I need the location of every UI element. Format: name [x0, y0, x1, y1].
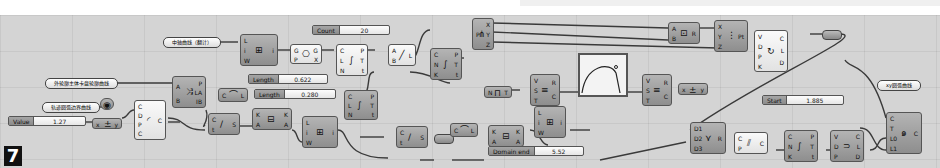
node-remap-2[interactable]: V S T ≡ R C [642, 74, 672, 106]
port[interactable]: C [138, 130, 142, 137]
node-divide-curve-2[interactable]: C N K ∫ P T t [430, 48, 462, 80]
port[interactable]: t [456, 71, 458, 78]
node-interp[interactable]: V D P ⊃ C L D [830, 130, 864, 162]
port[interactable]: L [306, 119, 309, 126]
port[interactable]: K [788, 153, 792, 160]
port[interactable]: V [758, 33, 762, 40]
port[interactable]: C [856, 133, 860, 140]
node-divide-curve-3[interactable]: C L N ∫ P T t [344, 90, 378, 120]
port[interactable]: L [340, 57, 343, 64]
port[interactable]: D [834, 143, 839, 150]
port[interactable]: C [914, 130, 918, 137]
node-polyline[interactable]: V D P K ↻ C L D [754, 30, 788, 72]
port[interactable]: W [244, 57, 250, 64]
port[interactable]: A [672, 25, 676, 32]
port[interactable]: Z [486, 41, 490, 48]
port[interactable]: C [158, 117, 162, 124]
port[interactable]: N [488, 89, 493, 96]
port[interactable]: L [409, 52, 412, 59]
port[interactable]: t [372, 111, 374, 118]
port[interactable]: L [538, 109, 541, 116]
node-curve-closest[interactable]: G P ⎔ G X [290, 44, 322, 64]
node-deconstruct[interactable]: P ⋔ X Y Z [472, 18, 494, 50]
port[interactable]: t [400, 139, 402, 146]
port[interactable]: C [434, 51, 438, 58]
node-length[interactable]: C ⌒ L [218, 88, 248, 102]
port[interactable]: S [646, 87, 650, 94]
port[interactable]: T [504, 89, 508, 96]
port[interactable]: C [222, 92, 226, 99]
node-line[interactable]: A B ╱ L [388, 44, 416, 66]
port[interactable]: Pt [738, 33, 744, 40]
port[interactable]: L [244, 37, 247, 44]
node-arc-blend[interactable]: C T L0 L1 ๑ C [886, 112, 922, 154]
port[interactable]: i [332, 129, 334, 136]
port[interactable]: A [392, 47, 396, 54]
panel-mid-curve[interactable]: 中轴曲线（翻计） [163, 37, 221, 48]
port[interactable]: i [272, 47, 274, 54]
port[interactable]: S [232, 121, 236, 128]
node-merge-d[interactable]: D1 D2 D3 ⋎ R [690, 122, 726, 154]
port[interactable]: N [348, 111, 353, 118]
port[interactable]: L [781, 47, 784, 54]
port[interactable]: L [857, 143, 860, 150]
port[interactable]: W [306, 139, 312, 146]
port[interactable]: C [664, 93, 668, 100]
port[interactable]: P [360, 47, 364, 54]
port[interactable]: P [198, 80, 202, 87]
port[interactable]: P [370, 93, 374, 100]
port[interactable]: K [256, 111, 260, 118]
port[interactable]: A [176, 83, 180, 90]
port[interactable]: G [294, 47, 299, 54]
panel-boundary-curve[interactable]: 轨迹圆弧边界曲线 [42, 102, 100, 113]
panel-outer-curve[interactable]: 外轮廓主体卡盘轮廓曲线 [45, 78, 118, 89]
port[interactable]: y [114, 121, 118, 128]
port[interactable]: P [294, 56, 298, 63]
port[interactable]: C [400, 129, 404, 136]
port[interactable]: C [138, 103, 142, 110]
node-list-item-2[interactable]: L i W ⊞ i [302, 116, 338, 148]
port[interactable]: C [890, 115, 894, 122]
node-circle-param[interactable]: ◉ [100, 98, 114, 110]
port[interactable]: B [672, 35, 676, 42]
port[interactable]: D [138, 112, 143, 119]
port[interactable]: Z [718, 43, 722, 50]
port[interactable]: B [392, 57, 396, 64]
port[interactable]: y [700, 86, 704, 93]
port[interactable]: T [534, 97, 538, 104]
port[interactable]: C [552, 93, 556, 100]
port[interactable]: A [516, 138, 520, 145]
panel-output-curve[interactable]: xy圆弧曲线 [877, 80, 921, 91]
port[interactable]: T [890, 125, 894, 132]
slider-count[interactable]: Count 20 [312, 25, 390, 35]
node-negate-2[interactable]: x ± y [678, 83, 708, 95]
node-merge-arc[interactable]: C D P C ◜ C [134, 100, 166, 140]
node-reparam-2[interactable]: K A ⊟ K A [488, 125, 524, 147]
port[interactable]: A [256, 121, 260, 128]
port[interactable]: R [664, 79, 668, 86]
port[interactable]: C [738, 135, 742, 142]
port[interactable]: S [534, 87, 538, 94]
node-negate[interactable]: x ± y [92, 118, 122, 129]
node-range[interactable]: N ⊓ T [484, 86, 512, 98]
port[interactable]: i [538, 119, 540, 126]
node-construct-point[interactable]: X Y Z ⋮ Pt [714, 20, 748, 52]
port[interactable]: S [420, 134, 424, 141]
port[interactable]: T [646, 97, 650, 104]
port[interactable]: D [779, 59, 784, 66]
port[interactable]: C [212, 116, 216, 123]
port[interactable]: C [760, 140, 764, 147]
port[interactable]: C [454, 127, 458, 134]
port[interactable]: C [788, 133, 792, 140]
port[interactable]: i [306, 129, 308, 136]
port[interactable]: L0 [890, 135, 897, 142]
port[interactable]: N [340, 67, 345, 74]
port[interactable]: x [96, 121, 100, 128]
port[interactable]: N [434, 61, 439, 68]
port[interactable]: D [758, 43, 763, 50]
port[interactable]: P [138, 121, 142, 128]
port[interactable]: V [646, 77, 650, 84]
port[interactable]: L1 [890, 145, 897, 152]
port[interactable]: A [492, 138, 496, 145]
port[interactable]: L [348, 102, 351, 109]
